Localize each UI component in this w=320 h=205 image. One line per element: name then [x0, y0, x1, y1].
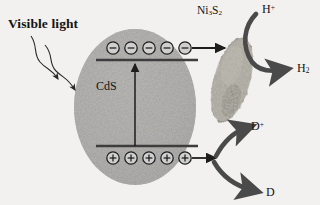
- donor-oxidized-label: D+: [251, 120, 264, 132]
- donor-oxidation-arrow: [216, 128, 246, 156]
- electron-carrier: [107, 42, 119, 54]
- electron-carrier: [161, 42, 173, 54]
- hole-carrier: [143, 152, 155, 164]
- hole-carrier: [179, 152, 191, 164]
- hydrogen-label-sub: 2: [306, 66, 310, 75]
- electron-carrier: [179, 42, 191, 54]
- ni3s2-label-ni: Ni: [197, 4, 209, 16]
- visible-light-arrows: [31, 36, 75, 90]
- hole-carrier: [161, 152, 173, 164]
- visible-light-label: Visible light: [8, 17, 78, 31]
- donor-consumption-arrow: [214, 162, 252, 190]
- donor-oxidized-label-base: D: [251, 119, 260, 133]
- donor-label: D: [266, 186, 275, 198]
- donor-oxidized-label-charge: +: [260, 120, 264, 129]
- proton-label-charge: +: [271, 3, 275, 12]
- proton-reduction-arrow: [245, 14, 282, 71]
- hydrogen-label: H2: [297, 62, 309, 75]
- proton-label: H+: [262, 3, 275, 15]
- electron-carrier: [143, 42, 155, 54]
- hole-carrier: [107, 152, 119, 164]
- proton-label-base: H: [262, 2, 271, 16]
- ni3s2-label: Ni3S2: [197, 5, 222, 17]
- electron-carrier: [125, 42, 137, 54]
- photocatalysis-diagram: Visible light CdS Ni3S2 H+ H2 D+ D: [0, 0, 320, 205]
- light-ray-2: [45, 45, 75, 90]
- light-ray-1: [31, 36, 58, 79]
- hole-carrier: [125, 152, 137, 164]
- cds-label: CdS: [96, 80, 117, 92]
- hydrogen-label-base: H: [297, 61, 306, 75]
- ni3s2-label-sub2: 2: [218, 9, 222, 17]
